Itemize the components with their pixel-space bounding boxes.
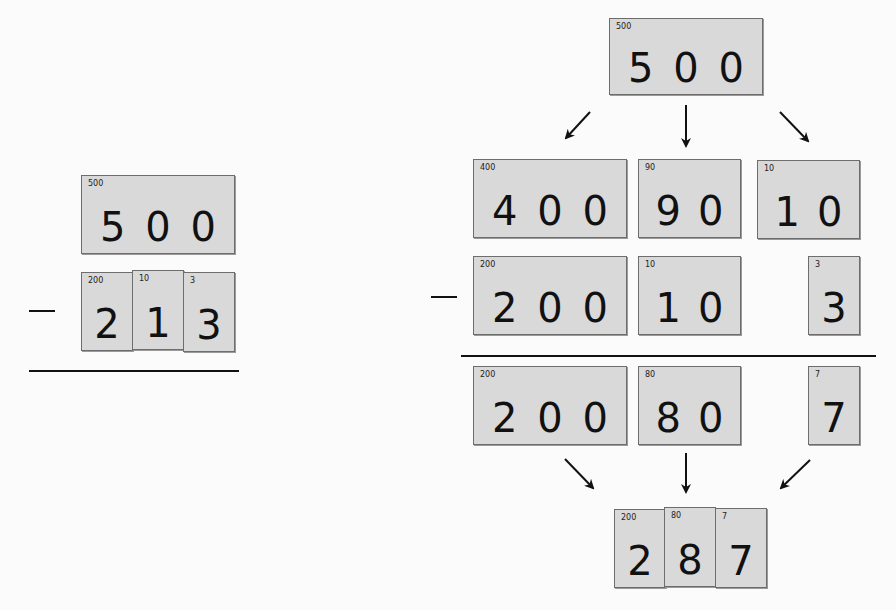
arrow-down-right-icon [565, 459, 593, 488]
arrow-down-right-icon [780, 112, 808, 141]
arrows [0, 0, 896, 610]
arrow-down-left-icon [566, 112, 590, 138]
arrow-down-left-icon [781, 460, 810, 488]
